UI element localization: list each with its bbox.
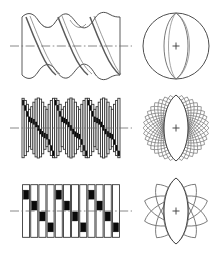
helix-flight-block	[46, 134, 48, 139]
helix-flight-block	[70, 126, 72, 131]
row-continuous-end-view	[140, 0, 216, 86]
helix-top-envelope	[22, 12, 120, 28]
helix-flight-block	[79, 134, 81, 139]
helix-flight-block	[44, 133, 46, 138]
helix-flight-block	[32, 201, 37, 210]
helix-flight-block	[77, 133, 79, 138]
helix-flight-block	[109, 133, 111, 138]
helix-flight-block	[101, 122, 103, 127]
helix-rear-flight-1	[38, 20, 54, 27]
helix-flight-block	[22, 100, 24, 105]
helix-flight-block	[72, 212, 77, 221]
helix-flight-block	[94, 117, 96, 122]
helix-flight-block	[48, 140, 50, 145]
fine-rotated-lens-svg	[140, 86, 216, 170]
helix-flight-block	[40, 129, 42, 134]
helix-flight-block	[61, 117, 63, 122]
helix-flight-block	[112, 134, 114, 139]
helix-flight-block	[53, 151, 55, 156]
helix-flight-block	[81, 140, 83, 145]
helix-flight-block	[107, 132, 109, 137]
helix-flight-block	[35, 122, 37, 127]
helix-flight-block	[51, 146, 53, 151]
helix-flight-block	[97, 201, 102, 210]
helix-flight-block	[24, 105, 26, 110]
helix-flight-block	[75, 132, 77, 137]
fine-strip-helix-svg	[0, 86, 140, 170]
coarse-rotated-lens-svg	[140, 170, 216, 257]
coarse-strip-helix-svg	[0, 170, 140, 257]
helix-flight-block	[68, 122, 70, 127]
helix-flight-block	[98, 119, 100, 124]
row-fine-strips-end-view	[140, 86, 216, 170]
helix-flight-block	[64, 118, 66, 123]
helix-flight-block	[48, 223, 53, 232]
helix-flight-block	[64, 201, 69, 210]
helix-rear-flight-2	[70, 20, 86, 27]
helix-flight-edge-3	[94, 16, 121, 74]
center-cross-mark-row1	[173, 43, 180, 50]
circle-end-view-svg	[140, 0, 216, 86]
helix-flight-block	[89, 190, 94, 199]
helix-flight-block	[105, 129, 107, 134]
helix-flight-block	[59, 111, 61, 116]
row-coarse-strips-end-view	[140, 170, 216, 257]
helix-flight-block	[81, 223, 86, 232]
helix-flight-block	[31, 118, 33, 123]
row-fine-strips-side-view	[0, 86, 140, 170]
helix-flight-block	[116, 146, 118, 151]
helix-flight-block	[105, 212, 110, 221]
helix-flight-block	[27, 111, 29, 116]
helix-flight-block	[83, 146, 85, 151]
helix-flight-block	[40, 212, 45, 221]
smooth-helix-svg	[0, 0, 140, 86]
helix-flight-block	[55, 100, 57, 105]
helix-bottom-envelope	[22, 64, 120, 80]
helix-flight-block	[113, 223, 118, 232]
helix-flight-block	[29, 117, 31, 122]
helix-flight-block	[23, 190, 28, 199]
helix-flight-block	[33, 119, 35, 124]
row-coarse-strips-side-view	[0, 170, 140, 257]
helix-flight-block	[92, 111, 94, 116]
helix-flight-block	[118, 151, 120, 156]
helix-flight-block	[42, 132, 44, 137]
helix-flight-block	[57, 105, 59, 110]
helix-flight-block	[114, 140, 116, 145]
helix-flight-block	[96, 118, 98, 123]
helix-flight-block	[72, 129, 74, 134]
diagram-root	[0, 0, 216, 257]
helix-flight-block	[56, 190, 61, 199]
helix-flight-block	[66, 119, 68, 124]
helix-flight-block	[85, 151, 87, 156]
helix-flight-block	[90, 105, 92, 110]
row-continuous-side-view	[0, 0, 140, 86]
helix-flight-block	[88, 100, 90, 105]
